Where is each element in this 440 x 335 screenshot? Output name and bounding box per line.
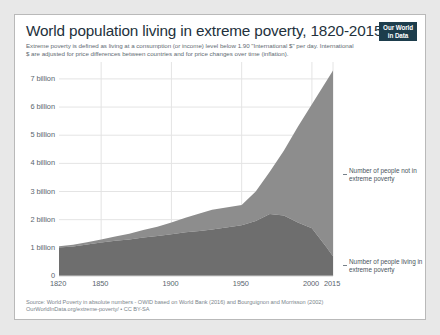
leader-dash-icon [343,265,347,266]
y-axis-tick-label: 5 billion [30,130,55,139]
series-label-text: Number of people living in extreme pover… [349,258,422,273]
source-line-2[interactable]: OurWorldInData.org/extreme-poverty/ • CC… [26,306,323,313]
y-axis-tick-label: 4 billion [30,158,55,167]
x-axis-tick-label: 2015 [324,279,340,288]
x-axis-tick-label: 1850 [92,279,108,288]
series-label-not-in-extreme-poverty: Number of people not in extreme poverty [349,167,423,183]
screenshot-root: World population living in extreme pover… [0,0,440,335]
leader-dash-icon [343,174,347,175]
y-axis-tick-label: 1 billion [30,243,55,252]
series-label-in-extreme-poverty: Number of people living in extreme pover… [349,258,423,274]
y-axis-tick-label: 6 billion [30,102,55,111]
y-axis-tick-label: 2 billion [30,215,55,224]
chart-card: World population living in extreme pover… [14,14,426,320]
x-axis-tick-label: 1950 [233,279,249,288]
y-axis-tick-label: 3 billion [30,187,55,196]
x-axis-tick-label: 1820 [50,279,66,288]
source-line-1: Source: World Poverty in absolute number… [26,299,323,305]
x-axis-tick-label: 2000 [303,279,319,288]
chart-source-footer: Source: World Poverty in absolute number… [26,299,323,313]
y-axis-tick-label: 7 billion [30,74,55,83]
x-axis-tick-label: 1900 [162,279,178,288]
series-label-text: Number of people not in extreme poverty [349,167,417,182]
